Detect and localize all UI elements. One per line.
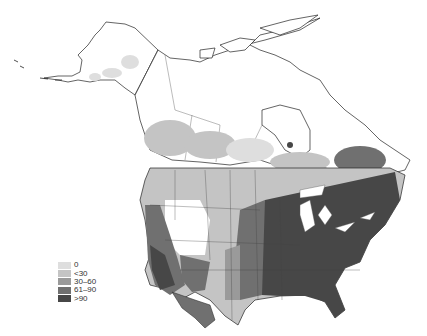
- legend-swatch: [58, 295, 71, 302]
- legend-label: 0: [74, 261, 78, 269]
- legend-swatch: [58, 278, 71, 285]
- legend-swatch: [58, 262, 71, 269]
- legend-swatch: [58, 270, 71, 277]
- legend-label: >90: [74, 295, 88, 303]
- legend-item: >90: [58, 295, 96, 303]
- alaska-region: [14, 22, 158, 95]
- map-legend: 0 <30 30–60 61–90 >90: [58, 261, 96, 303]
- canada-region: [135, 15, 410, 178]
- legend-swatch: [58, 287, 71, 294]
